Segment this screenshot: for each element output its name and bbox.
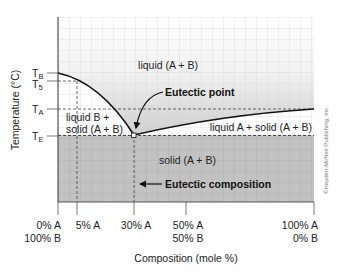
- x-label-5: 5% A: [76, 219, 101, 231]
- x-label-30: 30% A: [121, 219, 151, 231]
- ta-label: TA: [32, 103, 43, 117]
- x-label-50-line1: 50% A: [173, 219, 203, 231]
- x-label-100-line2: 0% B: [293, 232, 318, 244]
- x-label-100-line1: 100% A: [282, 219, 318, 231]
- grid-lower: [58, 136, 314, 202]
- liquid-region-label: liquid (A + B): [138, 59, 198, 71]
- x-label-0-line1: 0% A: [36, 219, 61, 231]
- eutectic-point-label: Eutectic point: [165, 86, 235, 98]
- liquid-a-solid-label: liquid A + solid (A + B): [210, 121, 312, 133]
- y-axis-label: Temperature (°C): [9, 70, 21, 151]
- eutectic-point-marker: [132, 133, 137, 138]
- liquid-b-solid-label-line2: solid (A + B): [66, 123, 123, 135]
- eutectic-composition-label: Eutectic composition: [165, 178, 271, 190]
- x-label-50-line2: 50% B: [173, 232, 204, 244]
- x-label-0-line2: 100% B: [24, 232, 61, 244]
- phase-diagram: TB T5 TA TE Temperature (°C) 0% A 100% B…: [0, 0, 343, 277]
- solid-region-label: solid (A + B): [159, 154, 216, 166]
- te-label: TE: [32, 130, 43, 144]
- liquid-b-solid-label-line1: liquid B +: [66, 111, 110, 123]
- x-axis-label: Composition (mole %): [134, 252, 237, 264]
- copyright-text: ©Hayden-McNeil Publishing, Inc.: [323, 106, 329, 194]
